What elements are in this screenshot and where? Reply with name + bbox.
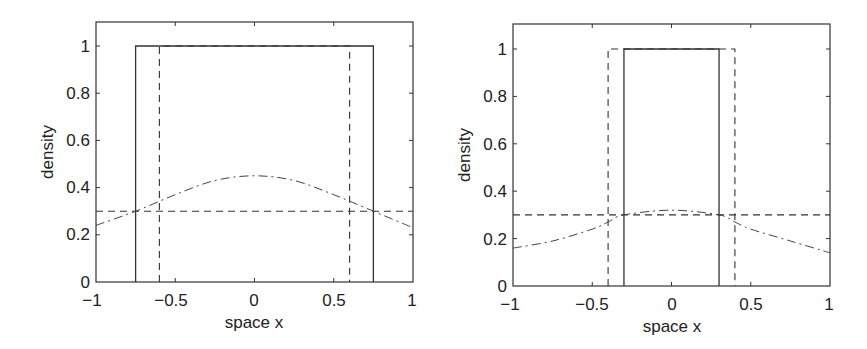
right-axes-box: [513, 24, 830, 286]
right-ytick-0.8: 0.8: [483, 87, 507, 106]
right-xtick--1: −1: [500, 295, 519, 314]
left-x-tick-labels: −1 −0.5 0 0.5 1: [82, 291, 416, 310]
right-ytick-1: 1: [498, 40, 507, 59]
right-xtick-0.5: 0.5: [739, 295, 763, 314]
left-ytick-0.8: 0.8: [66, 84, 90, 103]
right-ytick-0.6: 0.6: [483, 135, 507, 154]
right-axis-ticks: [513, 24, 830, 286]
right-plot-area: [513, 49, 830, 286]
left-xtick-0.5: 0.5: [322, 291, 346, 310]
right-chart: 0 0.2 0.4 0.6 0.8 1 −1 −0.5 0 0.5 1 spac…: [455, 24, 834, 336]
dash-dot-curve: [96, 176, 413, 228]
left-plot-area: [96, 46, 413, 282]
right-xtick-0: 0: [667, 295, 676, 314]
solid-box-line: [136, 46, 374, 282]
left-xtick-0: 0: [249, 291, 258, 310]
right-y-tick-labels: 0 0.2 0.4 0.6 0.8 1: [483, 40, 507, 296]
left-axis-ticks: [96, 22, 413, 282]
left-xtick--0.5: −0.5: [154, 291, 188, 310]
left-y-tick-labels: 0 0.2 0.4 0.6 0.8 1: [66, 37, 90, 292]
left-ytick-1: 1: [81, 37, 90, 56]
solid-box-line: [624, 49, 719, 286]
left-axes-box: [96, 22, 413, 282]
left-x-axis-label: space x: [225, 313, 284, 332]
right-ytick-0.2: 0.2: [483, 230, 507, 249]
dashed-box-line: [608, 49, 735, 286]
right-ytick-0.4: 0.4: [483, 182, 507, 201]
dash-dot-curve: [513, 210, 830, 253]
left-ytick-0.2: 0.2: [66, 225, 90, 244]
right-ytick-0: 0: [498, 277, 507, 296]
left-xtick-1: 1: [407, 291, 416, 310]
figure: 0 0.2 0.4 0.6 0.8 1 −1 −0.5 0 0.5 1 spac…: [0, 0, 867, 349]
right-xtick-1: 1: [824, 295, 833, 314]
left-y-axis-label: density: [38, 125, 57, 179]
left-chart: 0 0.2 0.4 0.6 0.8 1 −1 −0.5 0 0.5 1 spac…: [38, 22, 417, 332]
right-y-axis-label: density: [455, 128, 474, 182]
right-x-axis-label: space x: [643, 317, 702, 336]
right-x-tick-labels: −1 −0.5 0 0.5 1: [500, 295, 833, 314]
dashed-box-line: [159, 46, 349, 282]
left-ytick-0: 0: [81, 273, 90, 292]
left-ytick-0.6: 0.6: [66, 131, 90, 150]
left-xtick--1: −1: [82, 291, 101, 310]
left-ytick-0.4: 0.4: [66, 178, 90, 197]
right-xtick--0.5: −0.5: [575, 295, 609, 314]
